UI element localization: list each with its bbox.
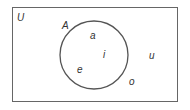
element-a: a — [90, 30, 96, 41]
element-o: o — [129, 76, 135, 87]
set-a-label: A — [61, 20, 69, 31]
element-u: u — [149, 50, 155, 61]
venn-diagram: U A a i e u o — [0, 0, 190, 110]
universal-set-label: U — [17, 12, 25, 23]
element-e: e — [77, 64, 83, 75]
